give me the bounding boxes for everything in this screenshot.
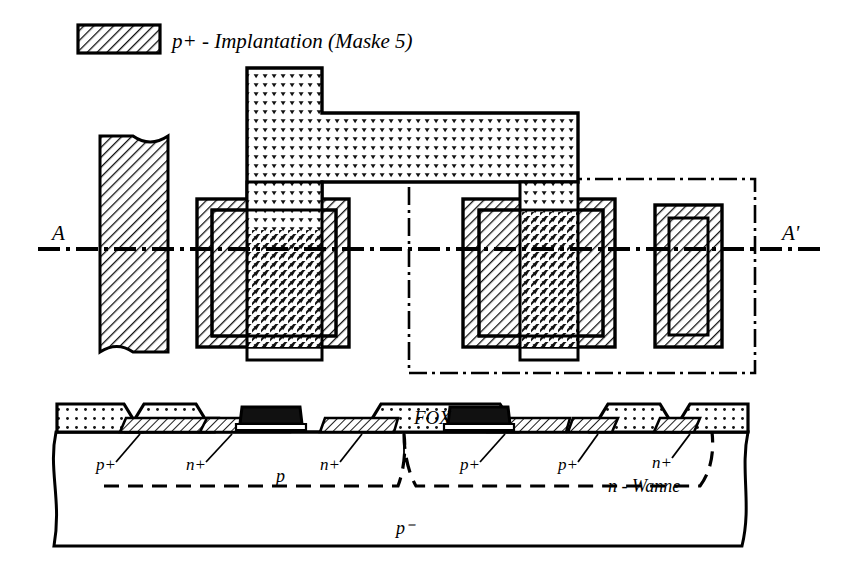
xs-pplus-label-2: p+ (459, 455, 480, 474)
pmos-poly-gate (444, 407, 514, 430)
pmos-gate-strip-lower (520, 182, 578, 212)
figure-root: p+ - Implantation (Maske 5) A A' (0, 0, 856, 578)
legend-label: p+ - Implantation (Maske 5) (170, 29, 412, 53)
xs-nplus-label-3: n+ (652, 453, 672, 472)
substrate-label: p⁻ (394, 518, 416, 538)
xs-nplus-label-2: n+ (320, 455, 340, 474)
p-plus-implantation-swatch (78, 25, 160, 53)
xs-pplus-label-3: p+ (557, 455, 578, 474)
xs-nplus-region-3 (654, 418, 700, 432)
epi-layer-label: p (274, 466, 285, 486)
legend: p+ - Implantation (Maske 5) (78, 25, 412, 53)
device-cross-section-A-A-prime: FOX p+ n+ n+ p+ p+ n+ p n - Wanne p⁻ (53, 404, 748, 546)
section-label-A: A (50, 221, 65, 245)
cmos-layout-figure: p+ - Implantation (Maske 5) A A' (0, 0, 856, 578)
section-label-A-prime: A' (780, 221, 800, 245)
xs-pplus-label-1: p+ (95, 455, 116, 474)
right-contact-rect (655, 205, 722, 347)
xs-nplus-region-2 (320, 418, 398, 432)
pmos-gate-overlap (520, 199, 578, 347)
nmos-gate-strip-lower (247, 182, 322, 230)
fox-label: FOX (413, 407, 452, 428)
n-well-label: n - Wanne (608, 476, 680, 496)
layout-top-view: A A' (38, 68, 822, 373)
xs-nplus-label-1: n+ (186, 455, 206, 474)
nmos-poly-gate (236, 407, 306, 430)
left-contact-bar (100, 136, 168, 352)
